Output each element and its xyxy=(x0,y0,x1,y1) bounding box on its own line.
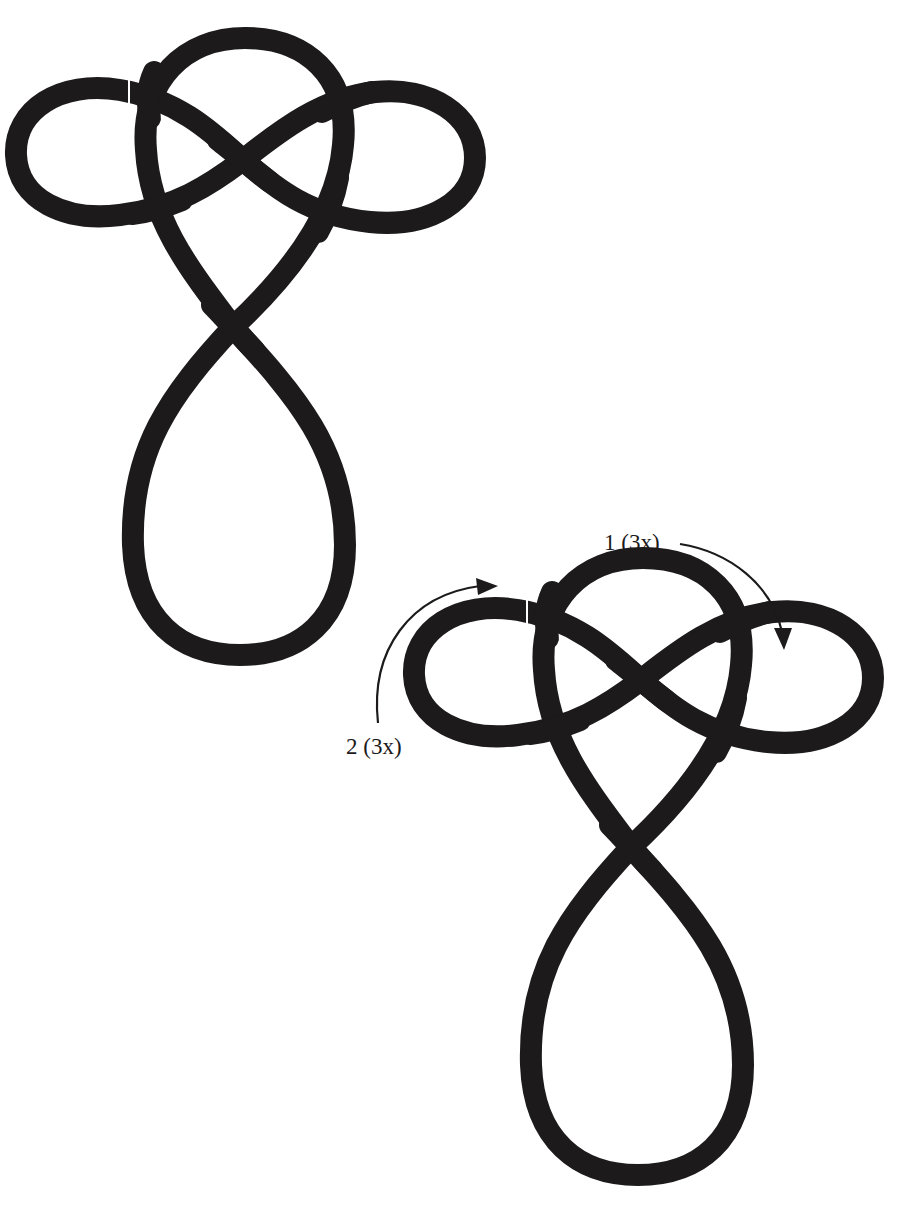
knot-2 xyxy=(414,558,873,1175)
step-2-label: 2 (3x) xyxy=(346,735,402,758)
knot-diagram-canvas xyxy=(0,0,900,1214)
knot-1 xyxy=(16,38,475,655)
step-1-label: 1 (3x) xyxy=(604,531,660,554)
